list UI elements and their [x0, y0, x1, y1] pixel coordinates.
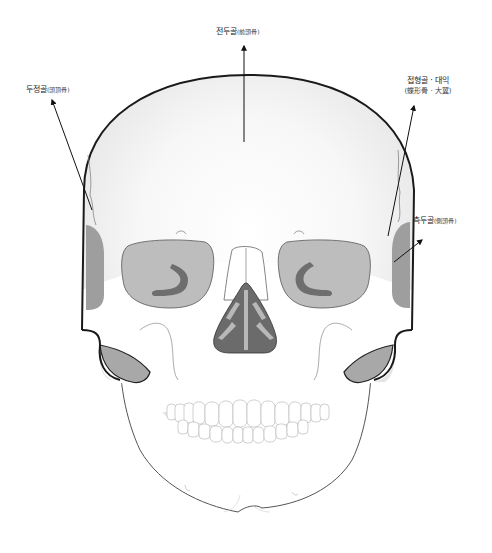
- orbit-right: [278, 240, 370, 308]
- pointer-parietal: [52, 100, 92, 210]
- label-frontal-korean: 전두골: [216, 27, 237, 36]
- orbit-left: [122, 240, 214, 308]
- label-temporal: 측두골(側頭骨): [413, 216, 457, 226]
- label-temporal-korean: 측두골: [413, 216, 434, 225]
- label-parietal-korean: 두정골: [26, 85, 47, 94]
- label-frontal: 전두골(前頭骨): [216, 27, 260, 37]
- label-frontal-hanja: (前頭骨): [237, 28, 260, 35]
- label-parietal: 두정골(頭頂骨): [26, 85, 70, 95]
- label-sphenoid-korean: 접형골 · 대익: [392, 76, 464, 86]
- label-temporal-hanja: (側頭骨): [434, 217, 457, 224]
- temporal-right: [392, 222, 410, 308]
- label-sphenoid-hanja: (蝶形骨 · 大翼): [392, 86, 464, 96]
- label-parietal-hanja: (頭頂骨): [47, 86, 70, 93]
- nasal-septum: [244, 290, 248, 350]
- label-sphenoid: 접형골 · 대익 (蝶形骨 · 大翼): [392, 76, 464, 96]
